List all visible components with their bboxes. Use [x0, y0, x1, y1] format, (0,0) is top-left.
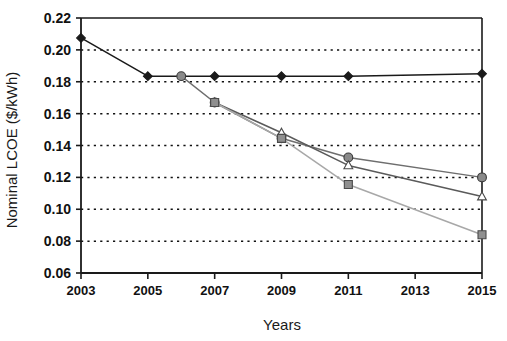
data-point-marker: [478, 173, 487, 182]
data-point-marker: [278, 134, 286, 142]
y-axis-tick-label: 0.18: [44, 74, 71, 90]
y-axis-tick-labels: 0.220.200.180.160.140.120.100.080.06: [44, 10, 71, 281]
data-point-marker: [344, 181, 352, 189]
y-axis-tick-label: 0.14: [44, 138, 71, 154]
x-axis-tick-label: 2005: [133, 283, 162, 298]
x-axis-tick-label: 2011: [334, 283, 362, 298]
x-axis-tick-label: 2015: [468, 283, 497, 298]
y-axis-tick-label: 0.16: [44, 106, 71, 122]
x-axis-title: Years: [263, 316, 301, 333]
lcoe-line-chart: 0.220.200.180.160.140.120.100.080.06 200…: [0, 0, 507, 341]
data-point-marker: [211, 98, 219, 106]
x-axis-tick-label: 2007: [200, 283, 229, 298]
data-point-marker: [478, 231, 486, 239]
y-axis-tick-label: 0.06: [44, 265, 71, 281]
chart-figure: 0.220.200.180.160.140.120.100.080.06 200…: [0, 0, 507, 341]
y-axis-tick-label: 0.08: [44, 233, 71, 249]
y-axis-tick-label: 0.22: [44, 10, 71, 26]
y-axis-tick-label: 0.12: [44, 169, 71, 185]
y-axis-tick-label: 0.20: [44, 42, 71, 58]
x-axis-tick-label: 2003: [67, 283, 96, 298]
y-axis-title: Nominal LCOE ($/kWh): [3, 72, 20, 229]
x-axis-tick-label: 2009: [267, 283, 296, 298]
y-axis-tick-label: 0.10: [44, 201, 71, 217]
data-point-marker: [177, 72, 186, 81]
x-axis-tick-label: 2013: [401, 283, 430, 298]
